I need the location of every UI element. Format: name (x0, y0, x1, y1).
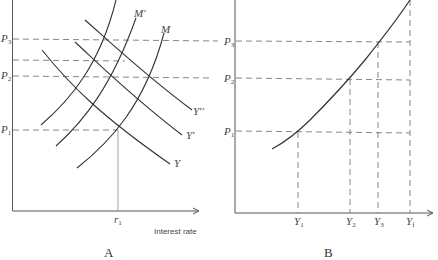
panel-a-x-axis-title: Interest rate (154, 227, 197, 236)
panel-b-label-p3: P3 (224, 36, 234, 49)
label-y-double-prime: Y′′ (193, 106, 204, 117)
panel-a-label-p1: P1 (1, 124, 11, 137)
diagram-canvas (0, 0, 438, 260)
curve-y-prime (75, 42, 182, 135)
panel-a-letter: A (104, 245, 113, 260)
curve-aggregate-supply (272, 0, 410, 149)
label-m: M (161, 24, 170, 35)
panel-a-label-p3: P3 (1, 33, 11, 46)
panel-a-label-r1: r1 (114, 214, 122, 227)
panel-a (13, 0, 219, 214)
panel-b-label-y3: Y3 (374, 216, 384, 229)
panel-b-label-y1: Y1 (294, 216, 304, 229)
panel-a-mid-dashed (13, 60, 125, 61)
panel-b-p3-dashed (236, 41, 410, 42)
label-y-prime: Y′ (186, 130, 195, 141)
panel-b (235, 0, 433, 216)
panel-a-p3-dashed (13, 39, 218, 41)
panel-b-label-p2: P2 (224, 73, 234, 86)
curve-m (77, 33, 164, 168)
label-m-prime: M′ (134, 8, 146, 19)
label-y: Y (174, 158, 180, 169)
panel-b-letter: B (324, 245, 333, 260)
panel-b-label-yf: Yf (406, 216, 414, 229)
curve-y (42, 50, 170, 164)
panel-b-label-y2: Y2 (346, 216, 356, 229)
panel-a-label-p2: P2 (1, 70, 11, 83)
curve-m-prime (56, 18, 136, 146)
panel-b-p1-dashed (236, 131, 410, 133)
panel-b-p2-dashed (236, 78, 410, 80)
panel-b-label-p1: P1 (224, 126, 234, 139)
